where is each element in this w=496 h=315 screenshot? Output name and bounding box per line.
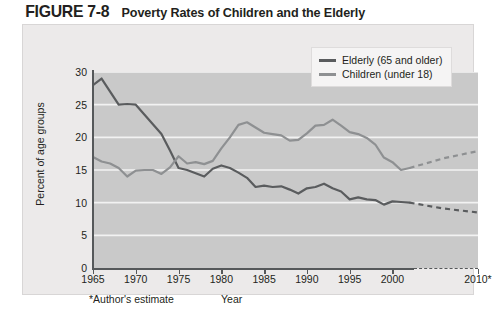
legend-item: Children (under 18) <box>319 67 442 81</box>
page-title: Poverty Rates of Children and the Elderl… <box>122 6 366 20</box>
y-tick-label: 10 <box>61 197 87 209</box>
x-tick-mark <box>93 269 94 274</box>
y-axis-title: Percent of age groups <box>34 79 46 229</box>
chart-legend: Elderly (65 and older)Children (under 18… <box>311 47 452 87</box>
x-tick-mark <box>478 269 479 274</box>
x-tick-mark <box>221 269 222 274</box>
figure-number: FIGURE 7-8 <box>25 2 109 22</box>
x-axis-line <box>92 268 414 270</box>
y-tick-label: 30 <box>61 66 87 78</box>
x-tick-mark <box>307 269 308 274</box>
legend-label: Elderly (65 and older) <box>342 54 442 66</box>
x-tick-mark <box>136 269 137 274</box>
y-axis-line <box>92 70 94 269</box>
y-tick-label: 20 <box>61 131 87 143</box>
x-axis-line-projected <box>414 268 478 269</box>
y-tick-label: 15 <box>61 164 87 176</box>
figure-header: FIGURE 7-8 Poverty Rates of Children and… <box>22 2 365 22</box>
x-tick-mark <box>179 269 180 274</box>
series-lines <box>93 79 478 213</box>
chart-svg <box>93 72 478 268</box>
line-swatch-icon <box>319 73 336 76</box>
x-tick-mark <box>392 269 393 274</box>
series-line-projected <box>410 151 478 168</box>
series-line <box>93 79 410 205</box>
series-line <box>93 120 410 177</box>
x-tick-label: 2000 <box>364 273 420 285</box>
y-axis-ticks: 051015202530 <box>59 25 87 296</box>
x-axis-title: Year <box>221 293 242 305</box>
plot-area <box>93 72 478 268</box>
x-tick-label: 2010* <box>450 273 496 285</box>
x-axis-ticks: 196519701975198019851990199520002010* <box>23 273 475 289</box>
line-swatch-icon <box>319 59 336 62</box>
legend-label: Children (under 18) <box>342 68 432 80</box>
chart-panel: Percent of age groups 051015202530 19651… <box>22 24 474 295</box>
series-line-projected <box>410 203 478 213</box>
x-tick-mark <box>350 269 351 274</box>
y-tick-label: 25 <box>61 99 87 111</box>
x-tick-mark <box>264 269 265 274</box>
legend-item: Elderly (65 and older) <box>319 53 442 67</box>
y-tick-label: 5 <box>61 229 87 241</box>
footnote: *Author's estimate <box>89 293 174 305</box>
gridlines <box>93 72 478 235</box>
